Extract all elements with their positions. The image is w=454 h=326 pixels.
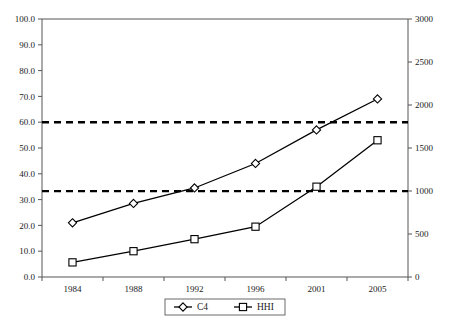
data-point-c4-1988 <box>129 199 137 207</box>
series-line-hhi <box>73 140 378 262</box>
right-axis-tick-label: 1000 <box>415 186 434 196</box>
x-axis-tick-label: 2005 <box>369 284 388 294</box>
right-axis-tick-label: 0 <box>415 272 420 282</box>
right-axis-tick-label: 3000 <box>415 14 434 24</box>
x-axis-tick-label: 2001 <box>308 284 326 294</box>
data-point-hhi-1984 <box>69 259 76 266</box>
left-axis-tick-label: 50.0 <box>19 143 35 153</box>
data-point-c4-2005 <box>373 95 381 103</box>
series-line-c4 <box>73 99 378 223</box>
x-axis-tick-label: 1988 <box>125 284 144 294</box>
legend-label-hhi: HHI <box>257 302 274 312</box>
x-axis-tick-label: 1996 <box>247 284 266 294</box>
data-point-hhi-1996 <box>252 223 259 230</box>
right-axis-tick-label: 1500 <box>415 143 434 153</box>
right-axis-tick-label: 500 <box>415 229 429 239</box>
left-axis-tick-label: 40.0 <box>19 169 35 179</box>
data-point-hhi-2005 <box>374 137 381 144</box>
left-axis-tick-label: 20.0 <box>19 221 35 231</box>
left-axis-tick-label: 10.0 <box>19 246 35 256</box>
chart-page: 0.010.020.030.040.050.060.070.080.090.01… <box>0 0 454 326</box>
legend-marker-hhi <box>239 303 246 310</box>
right-axis-tick-label: 2500 <box>415 57 434 67</box>
left-axis-tick-label: 80.0 <box>19 66 35 76</box>
x-axis-tick-label: 1992 <box>186 284 204 294</box>
left-axis-tick-label: 60.0 <box>19 117 35 127</box>
dual-axis-line-chart: 0.010.020.030.040.050.060.070.080.090.01… <box>0 0 454 326</box>
left-axis-tick-label: 90.0 <box>19 40 35 50</box>
left-axis-tick-label: 70.0 <box>19 92 35 102</box>
data-point-c4-1996 <box>251 159 259 167</box>
data-point-hhi-2001 <box>313 183 320 190</box>
data-point-hhi-1988 <box>130 248 137 255</box>
legend-label-c4: C4 <box>197 302 208 312</box>
left-axis-tick-label: 100.0 <box>15 14 36 24</box>
data-point-c4-2001 <box>312 126 320 134</box>
data-point-c4-1984 <box>68 219 76 227</box>
x-axis-tick-label: 1984 <box>64 284 83 294</box>
data-point-hhi-1992 <box>191 236 198 243</box>
left-axis-tick-label: 0.0 <box>24 272 36 282</box>
left-axis-tick-label: 30.0 <box>19 195 35 205</box>
right-axis-tick-label: 2000 <box>415 100 434 110</box>
